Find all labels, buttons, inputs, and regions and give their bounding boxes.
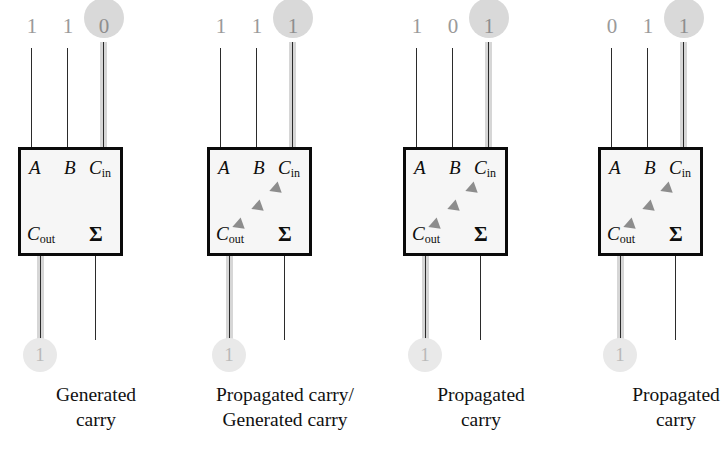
input-value-b: 0 [439,8,467,44]
input-value-a: 1 [207,8,235,44]
pin-label-sum: Σ [278,222,292,247]
wire-output-sum [284,256,285,340]
pin-label-cout-sub: out [620,232,635,246]
pin-label-cin-main: C [278,157,291,178]
cell-caption-line: Propagated [572,382,724,407]
output-value-cout: 1 [212,338,246,372]
pin-label-cout-sub: out [229,232,244,246]
pin-label-cin-sub: in [487,166,496,180]
pin-label-cout-sub: out [425,232,440,246]
input-value-row: 111 [205,8,365,48]
carry-arrowhead-icon [658,181,672,196]
input-value-row: 110 [16,8,176,48]
full-adder-box: ABCinCoutΣ [18,147,123,256]
full-adder-cell: 101ABCinCoutΣ1Propagatedcarry [401,0,561,469]
pin-label-cout-main: C [607,223,620,244]
cell-caption-line: Generated [0,382,200,407]
cell-caption-line: Generated carry [181,407,389,432]
pin-label-a: A [29,157,41,179]
wire-input-cin [292,42,293,150]
pin-label-cin: Cin [278,157,300,179]
pin-label-cout-main: C [412,223,425,244]
wire-input-b [452,48,453,147]
input-value-row: 101 [401,8,561,48]
pin-label-a: A [414,157,426,179]
full-adder-box: ABCinCoutΣ [207,147,312,256]
input-value-row: 011 [596,8,724,48]
wire-input-b [256,48,257,147]
full-adder-cell: 111ABCinCoutΣ1Propagated carry/Generated… [205,0,365,469]
pin-label-cin-main: C [89,157,102,178]
full-adder-box: ABCinCoutΣ [598,147,703,256]
pin-label-b: B [64,157,76,179]
full-adder-box: ABCinCoutΣ [403,147,508,256]
cell-caption-line: Propagated carry/ [181,382,389,407]
wire-input-cin [103,42,104,150]
pin-label-b: B [253,157,265,179]
wire-output-sum [675,256,676,340]
carry-arrowhead-icon [267,181,281,196]
pin-label-cout: Cout [27,223,55,245]
wire-input-b [647,48,648,147]
carry-arrowhead-icon [445,199,459,214]
wire-input-a [416,48,417,147]
output-value-cout: 1 [408,338,442,372]
pin-label-cin: Cin [474,157,496,179]
pin-label-cin: Cin [669,157,691,179]
pin-label-cin-main: C [669,157,682,178]
cell-caption-line: carry [377,407,585,432]
carry-arrowhead-icon [249,199,263,214]
pin-label-b: B [449,157,461,179]
wire-output-sum [480,256,481,340]
input-value-b: 1 [243,8,271,44]
input-value-a: 0 [598,8,626,44]
wire-output-sum [95,256,96,340]
input-value-b: 1 [54,8,82,44]
pin-label-cin: Cin [89,157,111,179]
wire-input-cin [683,42,684,150]
pin-label-a: A [218,157,230,179]
input-value-a: 1 [18,8,46,44]
pin-label-cout-main: C [27,223,40,244]
output-value-cout: 1 [23,338,57,372]
wire-input-a [611,48,612,147]
cell-caption: Propagated carry/Generated carry [181,382,389,432]
cell-caption: Generatedcarry [0,382,200,432]
pin-label-b: B [644,157,656,179]
wire-input-cin [488,42,489,150]
carry-propagation-diagram: 110ABCinCoutΣ1Generatedcarry111ABCinCout… [0,0,724,469]
input-value-cin: 1 [475,8,503,44]
full-adder-cell: 110ABCinCoutΣ1Generatedcarry [16,0,176,469]
pin-label-sum: Σ [89,222,103,247]
cell-caption: Propagatedcarry [377,382,585,432]
wire-input-a [220,48,221,147]
output-value-cout: 1 [603,338,637,372]
cell-caption: Propagatedcarry [572,382,724,432]
input-value-b: 1 [634,8,662,44]
pin-label-sum: Σ [669,222,683,247]
carry-arrowhead-icon [640,199,654,214]
cell-caption-line: Propagated [377,382,585,407]
wire-input-b [67,48,68,147]
pin-label-sum: Σ [474,222,488,247]
carry-arrowhead-icon [463,181,477,196]
pin-label-cout-main: C [216,223,229,244]
pin-label-cout-sub: out [40,232,55,246]
pin-label-a: A [609,157,621,179]
pin-label-cin-sub: in [682,166,691,180]
cell-caption-line: carry [0,407,200,432]
pin-label-cin-sub: in [102,166,111,180]
input-value-cin: 1 [279,8,307,44]
pin-label-cin-main: C [474,157,487,178]
input-value-a: 1 [403,8,431,44]
pin-label-cin-sub: in [291,166,300,180]
full-adder-cell: 011ABCinCoutΣ1Propagatedcarry [596,0,724,469]
input-value-cin: 1 [670,8,698,44]
input-value-cin: 0 [90,8,118,44]
cell-caption-line: carry [572,407,724,432]
wire-input-a [31,48,32,147]
